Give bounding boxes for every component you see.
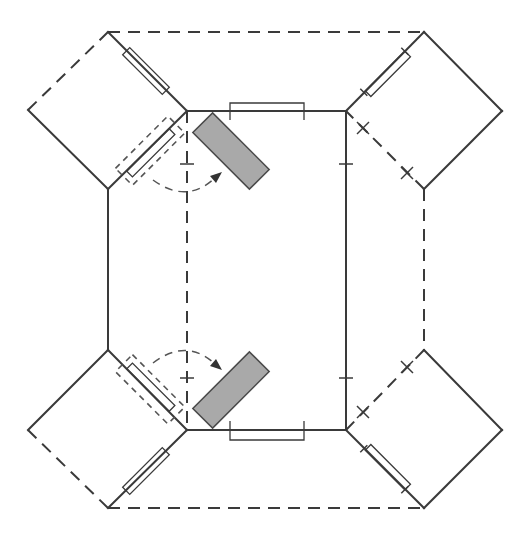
lower-rotating-panel	[193, 352, 269, 428]
fold-diagram	[0, 0, 532, 534]
top-left-inner-hinge	[115, 116, 184, 185]
top-right-flap	[346, 32, 502, 189]
top-left-flap	[28, 32, 187, 189]
bottom-left-inner-hinge	[115, 355, 184, 424]
top-right-fold-crosses	[357, 122, 413, 179]
lower-arrowhead-icon	[210, 359, 222, 370]
bottom-left-flap	[28, 350, 187, 508]
bottom-right-flap	[346, 350, 502, 508]
bottom-right-fold-crosses	[357, 361, 413, 418]
upper-rotating-panel	[193, 113, 269, 189]
diagram-canvas	[0, 0, 532, 534]
